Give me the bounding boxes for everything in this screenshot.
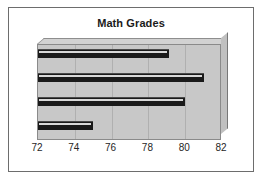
plot-area — [37, 44, 221, 140]
bar[interactable] — [38, 97, 185, 106]
x-tick-label: 72 — [31, 142, 42, 153]
chart-title: Math Grades — [9, 17, 253, 29]
x-tick-label: 74 — [68, 142, 79, 153]
x-tick-label: 80 — [179, 142, 190, 153]
x-tick-label: 82 — [215, 142, 226, 153]
plot-region — [37, 38, 229, 140]
bar-row — [38, 117, 221, 140]
x-axis-tick-labels: 727476788082 — [37, 142, 229, 158]
bar-row — [38, 69, 221, 93]
bar[interactable] — [38, 121, 93, 130]
bar-row — [38, 45, 221, 69]
bar[interactable] — [38, 73, 204, 82]
plot-side-face — [221, 32, 228, 134]
bar[interactable] — [38, 49, 169, 58]
x-tick-label: 78 — [142, 142, 153, 153]
x-tick-label: 76 — [105, 142, 116, 153]
bar-row — [38, 93, 221, 117]
chart-frame: Math Grades 727476788082 — [8, 7, 254, 172]
